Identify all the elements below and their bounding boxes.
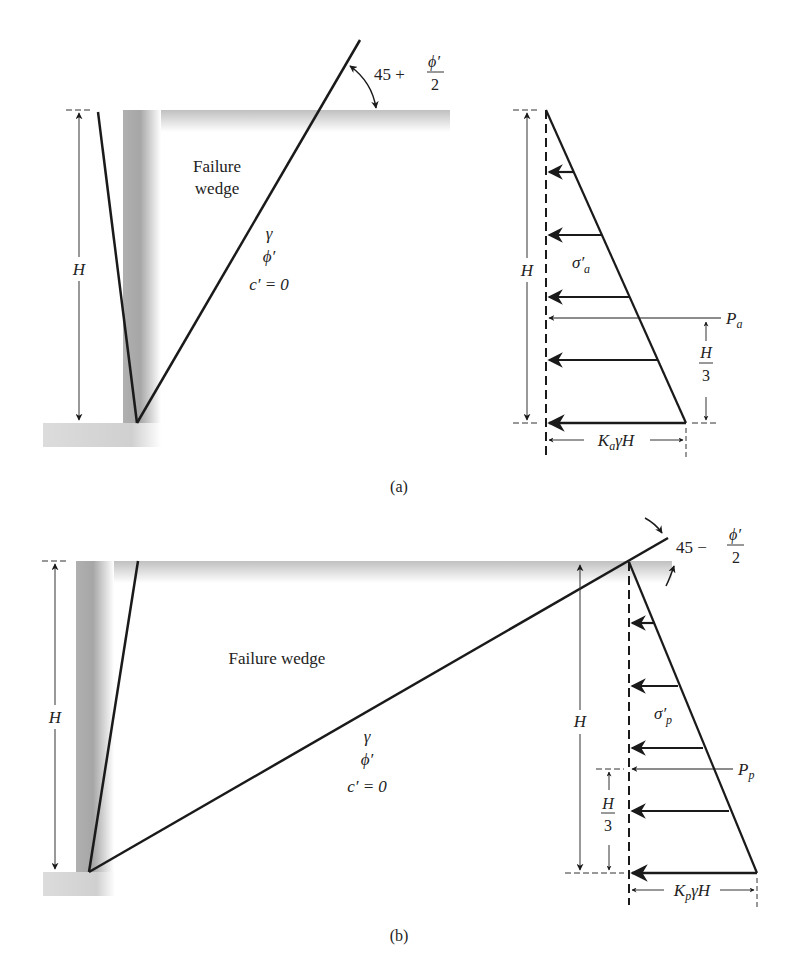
- base-ground: [43, 872, 115, 896]
- panel-b: H 45 − ϕ′ 2 Failure wedge γ ϕ′ c′ = 0 H …: [42, 518, 757, 945]
- unit-weight-label: γ: [266, 224, 274, 243]
- angle-arc: [350, 66, 376, 108]
- lever-arm-numerator: H: [601, 795, 615, 812]
- failure-plane: [137, 40, 360, 423]
- angle-prefix: 45 +: [374, 65, 405, 84]
- angle-prefix: 45 −: [676, 538, 707, 557]
- failure-wedge-label-2: wedge: [195, 179, 239, 198]
- cohesion-label: c′ = 0: [249, 275, 289, 294]
- panel-a: H 45 + ϕ′ 2 Failure wedge γ ϕ′ c′ = 0 H …: [43, 40, 742, 496]
- angle-denominator: 2: [431, 76, 439, 93]
- resultant-force-label: Pp: [737, 760, 754, 782]
- base-ground: [43, 423, 161, 447]
- caption-a: (a): [390, 478, 408, 496]
- lever-arm-denominator: 3: [604, 817, 612, 834]
- base-pressure-label: KpγH: [673, 881, 712, 903]
- pressure-distribution-line: [629, 562, 757, 873]
- backfill-surface: [76, 561, 672, 583]
- angle-denominator: 2: [732, 549, 740, 566]
- retaining-wall: [123, 110, 161, 430]
- pressure-label: σ′p: [654, 704, 672, 727]
- unit-weight-label: γ: [364, 727, 372, 746]
- pressure-label: σ′a: [572, 253, 590, 276]
- failure-wedge-label: Failure: [193, 157, 241, 176]
- backfill-surface: [123, 110, 450, 132]
- friction-angle-label: ϕ′: [263, 247, 276, 266]
- base-pressure-label: KaγH: [597, 431, 636, 453]
- pressure-height-label: H: [520, 261, 535, 280]
- height-label: H: [48, 708, 63, 727]
- cohesion-label: c′ = 0: [347, 777, 387, 796]
- right-height-label: H: [573, 712, 588, 731]
- pressure-distribution-line: [546, 110, 686, 423]
- angle-numerator: ϕ′: [428, 53, 440, 71]
- caption-b: (b): [390, 927, 409, 945]
- friction-angle-label: ϕ′: [361, 750, 374, 769]
- lever-arm-denominator: 3: [702, 367, 710, 384]
- earth-pressure-diagram: H 45 + ϕ′ 2 Failure wedge γ ϕ′ c′ = 0 H …: [0, 0, 804, 971]
- resultant-force-label: Pa: [725, 309, 742, 331]
- height-label: H: [72, 260, 87, 279]
- angle-numerator: ϕ′: [729, 526, 741, 544]
- failure-plane: [89, 538, 668, 872]
- failure-wedge-label: Failure wedge: [229, 649, 326, 668]
- lever-arm-numerator: H: [699, 344, 713, 361]
